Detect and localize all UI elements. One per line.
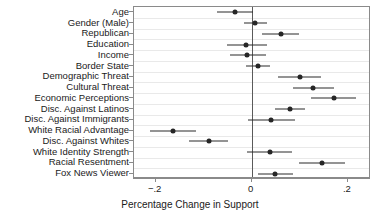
estimate-marker — [245, 53, 250, 58]
estimate-row — [134, 125, 369, 136]
estimate-marker — [319, 160, 324, 165]
y-axis-label: Border State — [76, 60, 129, 71]
y-axis-label: Gender (Male) — [68, 17, 129, 28]
x-axis-title: Percentage Change in Support — [0, 199, 380, 210]
estimate-marker — [287, 107, 292, 112]
x-axis-tick-label: 0 — [248, 183, 253, 194]
estimate-marker — [269, 117, 274, 122]
y-axis-label: Disc. Against Whites — [42, 135, 129, 146]
x-axis-tick — [251, 178, 252, 182]
estimate-row — [134, 147, 369, 158]
estimate-marker — [255, 64, 260, 69]
estimate-row — [134, 157, 369, 168]
estimate-row — [134, 18, 369, 29]
estimate-row — [134, 28, 369, 39]
estimate-marker — [331, 96, 336, 101]
plot-area — [133, 6, 370, 178]
estimate-marker — [272, 171, 277, 176]
estimate-row — [134, 61, 369, 72]
x-axis-tick — [347, 178, 348, 182]
estimate-marker — [252, 21, 257, 26]
estimate-marker — [244, 42, 249, 47]
y-axis-label: Disc. Against Latinos — [41, 103, 129, 114]
y-axis-label: Education — [87, 38, 129, 49]
estimate-row — [134, 39, 369, 50]
y-axis-label: Income — [98, 49, 129, 60]
y-axis-label: White Racial Advantage — [28, 124, 129, 135]
y-axis-label: Republican — [81, 27, 129, 38]
estimate-row — [134, 93, 369, 104]
estimate-marker — [279, 31, 284, 36]
estimate-row — [134, 136, 369, 147]
estimate-marker — [206, 139, 211, 144]
y-axis-label: White Identity Strength — [33, 146, 129, 157]
estimate-marker — [310, 85, 315, 90]
x-axis-tick-label: −.2 — [148, 183, 161, 194]
y-axis-label: Age — [112, 6, 129, 17]
y-axis-label: Disc. Against Immigrants — [24, 113, 129, 124]
y-axis-label: Fox News Viewer — [55, 167, 129, 178]
estimate-row — [134, 71, 369, 82]
estimate-row — [134, 114, 369, 125]
estimate-marker — [171, 128, 176, 133]
y-axis-label: Demographic Threat — [43, 70, 129, 81]
estimate-row — [134, 82, 369, 93]
estimate-marker — [298, 74, 303, 79]
estimate-row — [134, 104, 369, 115]
estimate-row — [134, 50, 369, 61]
x-axis-tick-label: .2 — [343, 183, 351, 194]
estimate-row — [134, 7, 369, 18]
y-axis-label: Economic Perceptions — [34, 92, 129, 103]
y-axis-label: Racial Resentment — [49, 156, 129, 167]
estimate-marker — [232, 10, 237, 15]
x-axis-tick — [155, 178, 156, 182]
y-axis-label: Cultural Threat — [66, 81, 129, 92]
coefficient-plot: AgeGender (Male)RepublicanEducationIncom… — [0, 0, 380, 223]
estimate-marker — [267, 150, 272, 155]
